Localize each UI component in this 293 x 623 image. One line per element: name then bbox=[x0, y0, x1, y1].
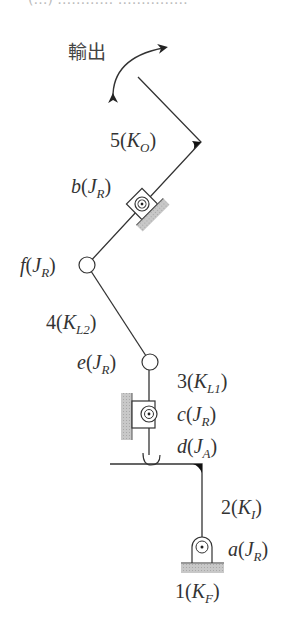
label-joint-e: e(JR) bbox=[77, 351, 116, 377]
joint-a bbox=[181, 537, 224, 573]
output-rotation-arrow-icon bbox=[113, 48, 163, 98]
link-5 bbox=[87, 77, 201, 265]
svg-text:c(JR): c(JR) bbox=[177, 403, 216, 429]
svg-text:1(KF): 1(KF) bbox=[175, 580, 220, 606]
mechanism-diagram: (…) ………… …………… 輸出 bbox=[0, 0, 293, 623]
svg-text:f(JR): f(JR) bbox=[20, 254, 56, 280]
joint-e bbox=[142, 354, 158, 370]
label-joint-a: a(JR) bbox=[228, 538, 268, 564]
svg-text:4(KL2): 4(KL2) bbox=[46, 311, 96, 337]
label-joint-f: f(JR) bbox=[20, 254, 56, 280]
label-link-5: 5(KO) bbox=[110, 129, 156, 155]
label-joint-b: b(JR) bbox=[71, 175, 111, 201]
label-joint-d: d(JA) bbox=[177, 435, 217, 461]
label-link-3: 3(KL1) bbox=[177, 370, 227, 396]
svg-text:b(JR): b(JR) bbox=[71, 175, 111, 201]
svg-text:2(KI): 2(KI) bbox=[221, 496, 262, 522]
rigid-corner-icon bbox=[193, 464, 202, 473]
rigid-corner-icon bbox=[192, 141, 201, 150]
svg-text:e(JR): e(JR) bbox=[77, 351, 116, 377]
label-link-2: 2(KI) bbox=[221, 496, 262, 522]
ground-hatch-a bbox=[181, 564, 224, 573]
svg-text:d(JA): d(JA) bbox=[177, 435, 217, 461]
label-link-4: 4(KL2) bbox=[46, 311, 96, 337]
output-label: 輸出 bbox=[68, 41, 106, 63]
svg-text:5(KO): 5(KO) bbox=[110, 129, 156, 155]
figure-title: (…) ………… …………… bbox=[28, 0, 188, 7]
link-2 bbox=[110, 464, 202, 540]
joint-d bbox=[143, 453, 160, 465]
joint-b bbox=[121, 183, 170, 232]
ground-hatch-c bbox=[121, 393, 132, 440]
label-joint-c: c(JR) bbox=[177, 403, 216, 429]
label-link-1: 1(KF) bbox=[175, 580, 220, 606]
svg-text:3(KL1): 3(KL1) bbox=[177, 370, 227, 396]
joint-f bbox=[79, 257, 95, 273]
link-4 bbox=[87, 265, 150, 362]
svg-text:a(JR): a(JR) bbox=[228, 538, 268, 564]
joint-c bbox=[121, 393, 157, 440]
